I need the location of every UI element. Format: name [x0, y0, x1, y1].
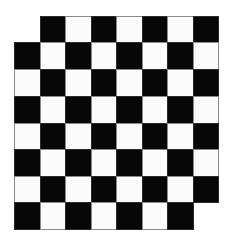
dark-square-r2-c5	[142, 69, 168, 97]
light-square-r5-c3	[91, 149, 117, 177]
dark-square-r7-c0	[14, 202, 41, 230]
light-square-r4-c2	[65, 123, 92, 150]
dark-square-r5-c0	[14, 149, 41, 177]
dark-square-r7-c6	[167, 202, 194, 230]
dark-square-r6-c7	[193, 176, 219, 203]
light-square-r5-c5	[142, 149, 168, 177]
dark-square-r5-c4	[116, 149, 143, 177]
light-square-r2-c0	[14, 69, 41, 97]
dark-square-r0-c7	[193, 16, 219, 43]
light-square-r2-c2	[65, 69, 92, 97]
light-square-r5-c1	[40, 149, 66, 177]
light-square-r2-c4	[116, 69, 143, 97]
dark-square-r1-c4	[116, 42, 143, 70]
light-square-r4-c6	[167, 123, 194, 150]
dark-square-r7-c4	[116, 202, 143, 230]
light-square-r2-c6	[167, 69, 194, 97]
light-square-r7-c3	[91, 202, 117, 230]
light-square-r6-c2	[65, 176, 92, 203]
dark-square-r1-c2	[65, 42, 92, 70]
light-square-r6-c4	[116, 176, 143, 203]
light-square-r3-c3	[91, 96, 117, 124]
light-square-r3-c7	[193, 96, 219, 124]
light-square-r0-c4	[116, 16, 143, 43]
light-square-r6-c0	[14, 176, 41, 203]
dark-square-r4-c1	[40, 123, 66, 150]
light-square-r3-c5	[142, 96, 168, 124]
dark-square-r0-c5	[142, 16, 168, 43]
dark-square-r0-c1	[40, 16, 66, 43]
dark-square-r4-c3	[91, 123, 117, 150]
light-square-r3-c1	[40, 96, 66, 124]
dark-square-r2-c3	[91, 69, 117, 97]
light-square-r1-c5	[142, 42, 168, 70]
dark-square-r1-c0	[14, 42, 41, 70]
dark-square-r0-c3	[91, 16, 117, 43]
light-square-r4-c4	[116, 123, 143, 150]
light-square-r6-c6	[167, 176, 194, 203]
dark-square-r3-c2	[65, 96, 92, 124]
dark-square-r3-c6	[167, 96, 194, 124]
dark-square-r2-c7	[193, 69, 219, 97]
light-square-r7-c5	[142, 202, 168, 230]
dark-square-r6-c5	[142, 176, 168, 203]
dark-square-r7-c2	[65, 202, 92, 230]
dark-square-r2-c1	[40, 69, 66, 97]
dark-square-r5-c6	[167, 149, 194, 177]
light-square-r7-c1	[40, 202, 66, 230]
light-square-r1-c7	[193, 42, 219, 70]
light-square-r4-c0	[14, 123, 41, 150]
dark-square-r4-c7	[193, 123, 219, 150]
dark-square-r5-c2	[65, 149, 92, 177]
dark-square-r3-c4	[116, 96, 143, 124]
dark-square-r1-c6	[167, 42, 194, 70]
dark-square-r3-c0	[14, 96, 41, 124]
dark-square-r6-c3	[91, 176, 117, 203]
dark-square-r6-c1	[40, 176, 66, 203]
dark-square-r4-c5	[142, 123, 168, 150]
light-square-r1-c1	[40, 42, 66, 70]
light-square-r5-c7	[193, 149, 219, 177]
light-square-r0-c6	[167, 16, 194, 43]
light-square-r0-c2	[65, 16, 92, 43]
mutilated-checkerboard	[0, 0, 228, 235]
light-square-r1-c3	[91, 42, 117, 70]
